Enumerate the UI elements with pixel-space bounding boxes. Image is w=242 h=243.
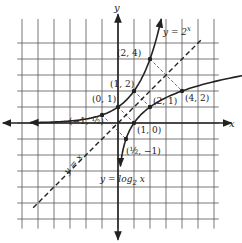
point-marker [132, 89, 136, 93]
point-marker [116, 105, 120, 109]
point-marker [180, 89, 184, 93]
point-label: (2, 4) [117, 48, 141, 58]
point-label: (1, 2) [110, 79, 134, 89]
point-label: (1, 0) [137, 125, 161, 135]
identity-line-label: y = x [61, 152, 84, 177]
point-marker [148, 57, 152, 61]
point-label: (0, 1) [92, 94, 116, 104]
x-axis-label: x [229, 118, 235, 129]
point-label: (4, 2) [185, 93, 209, 103]
point-marker [132, 121, 136, 125]
function-graph: (2, 4)(1, 2)(0, 1)(−1, ½)(4, 2)(2, 1)(1,… [0, 0, 242, 243]
y-axis-label: y [113, 2, 120, 13]
exp-curve-label: y = 2x [162, 25, 191, 37]
point-marker [148, 105, 152, 109]
point-marker [124, 137, 128, 141]
point-label: (2, 1) [153, 96, 177, 106]
point-label: (½, −1) [126, 146, 161, 156]
points: (2, 4)(1, 2)(0, 1)(−1, ½)(4, 2)(2, 1)(1,… [69, 48, 209, 156]
log-curve-label: y = log2 x [99, 174, 145, 187]
point-label: (−1, ½) [69, 116, 104, 126]
